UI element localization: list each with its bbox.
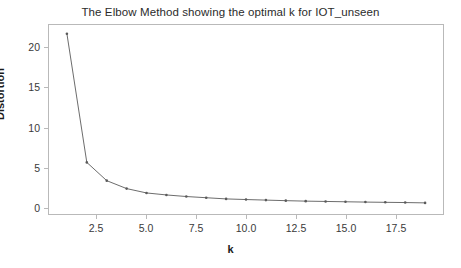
x-tick-mark — [346, 215, 347, 219]
y-tick-label: 10 — [28, 122, 40, 134]
x-tick-label: 7.5 — [189, 222, 204, 234]
y-tick-label: 5 — [34, 162, 40, 174]
y-tick-mark — [44, 208, 48, 209]
y-tick-label: 0 — [34, 202, 40, 214]
x-tick-label: 15.0 — [336, 222, 356, 234]
y-tick-label: 20 — [28, 41, 40, 53]
x-tick-label: 2.5 — [89, 222, 104, 234]
x-tick-mark — [246, 215, 247, 219]
x-tick-label: 5.0 — [139, 222, 154, 234]
x-tick-label: 10.0 — [236, 222, 256, 234]
y-tick-label: 15 — [28, 81, 40, 93]
axis-tick-layer: 051015202.55.07.510.012.515.017.5 — [0, 0, 461, 268]
x-axis-label: k — [0, 243, 461, 255]
x-tick-label: 12.5 — [286, 222, 306, 234]
y-tick-mark — [44, 47, 48, 48]
y-tick-mark — [44, 168, 48, 169]
x-tick-mark — [396, 215, 397, 219]
x-tick-mark — [296, 215, 297, 219]
chart-figure: The Elbow Method showing the optimal k f… — [0, 0, 461, 268]
y-axis-label: Distortion — [0, 68, 6, 120]
y-tick-mark — [44, 87, 48, 88]
x-tick-mark — [96, 215, 97, 219]
x-tick-mark — [196, 215, 197, 219]
x-tick-mark — [146, 215, 147, 219]
y-tick-mark — [44, 128, 48, 129]
x-tick-label: 17.5 — [386, 222, 406, 234]
